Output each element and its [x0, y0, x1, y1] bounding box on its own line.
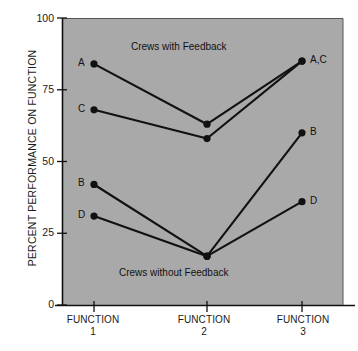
y-tick-label-50: 50 — [28, 155, 54, 167]
annotation-crews-with-feedback: Crews with Feedback — [131, 41, 227, 52]
x-tick-num-3: 3 — [258, 326, 348, 338]
x-tick-label-function-2: FUNCTION 2 — [159, 314, 249, 337]
chart-figure: PERCENT PERFORMANCE ON FUNCTION 100 75 5… — [0, 0, 358, 351]
y-tick-label-25: 25 — [28, 226, 54, 238]
x-tick-num-2: 2 — [159, 326, 249, 338]
point-label-right-b: B — [310, 126, 317, 137]
x-tick-word-3: FUNCTION — [277, 314, 329, 325]
data-point-a-2 — [203, 121, 210, 128]
point-label-right-ac: A,C — [310, 54, 327, 65]
annotation-crews-without-feedback: Crews without Feedback — [119, 267, 229, 278]
x-tick-label-function-3: FUNCTION 3 — [258, 314, 348, 337]
y-tick-label-75: 75 — [28, 83, 54, 95]
x-tick-label-function-1: FUNCTION 1 — [48, 314, 138, 337]
data-point-d-1 — [90, 212, 97, 219]
x-tick-num-1: 1 — [48, 326, 138, 338]
data-point-b-3 — [298, 129, 305, 136]
data-point-c-2 — [203, 135, 210, 142]
point-label-left-a: A — [78, 57, 85, 68]
point-label-left-c: C — [78, 103, 85, 114]
data-point-d-3 — [298, 198, 305, 205]
data-point-a-1 — [90, 60, 97, 67]
y-tick-label-100: 100 — [28, 12, 54, 24]
data-point-d-2 — [203, 253, 210, 260]
x-tick-word-2: FUNCTION — [178, 314, 230, 325]
point-label-left-d: D — [78, 209, 85, 220]
data-point-b-1 — [90, 181, 97, 188]
data-point-c-1 — [90, 106, 97, 113]
data-point-c-3 — [298, 57, 305, 64]
point-label-right-d: D — [310, 195, 317, 206]
y-tick-label-0: 0 — [28, 298, 54, 310]
point-label-left-b: B — [78, 177, 85, 188]
x-tick-word-1: FUNCTION — [67, 314, 119, 325]
